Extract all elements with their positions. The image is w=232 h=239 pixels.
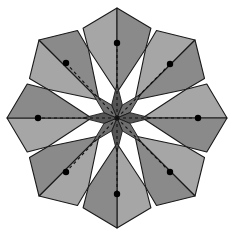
vertex-dot-southwest [63,169,69,175]
vertex-dot-northwest [63,60,69,66]
vertex-dot-east [195,115,201,121]
figure-root [0,0,232,239]
vertex-dot-north [114,40,120,46]
vertex-dot-southeast [167,169,173,175]
vertex-dot-northeast [167,61,173,67]
vertex-dot-west [35,115,41,121]
vertex-dot-south [114,191,120,197]
rosette-diagram [0,0,232,239]
